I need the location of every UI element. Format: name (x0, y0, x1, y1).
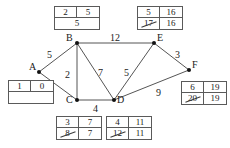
distance-cell-prev-b: 5 (55, 18, 99, 29)
graph-node-dot-a (37, 70, 41, 74)
distance-cell-order-d: 4 (107, 117, 129, 127)
distance-table-f: 6192019 (181, 81, 227, 105)
distance-cell-current-d: 11 (129, 128, 151, 139)
distance-cell-prev-e: 17 (138, 18, 160, 29)
graph-node-dot-d (112, 98, 116, 102)
edge-weight-a-b: 5 (47, 50, 52, 60)
distance-table-row-top: 619 (182, 82, 226, 93)
distance-cell-final-d: 11 (129, 117, 151, 127)
distance-table-row-bottom: 2019 (182, 93, 226, 104)
distance-cell-current-e: 16 (160, 18, 182, 29)
distance-cell-final-f: 19 (204, 82, 226, 92)
distance-cell-current-f: 19 (204, 93, 226, 104)
edge-weight-b-d: 7 (98, 68, 103, 78)
edge-weight-e-f: 3 (175, 50, 180, 60)
distance-table-row-top: 411 (107, 117, 151, 128)
distance-table-row-bottom (9, 92, 53, 103)
distance-table-d: 4111211 (106, 116, 152, 140)
graph-node-label-d: D (117, 95, 124, 105)
distance-cell-order-c: 3 (57, 117, 79, 127)
distance-cell-order-b: 2 (55, 7, 77, 17)
distance-table-b: 255 (54, 6, 100, 30)
graph-node-label-c: C (66, 95, 73, 105)
distance-cell-prev-f: 20 (182, 93, 204, 104)
distance-table-e: 5161716 (137, 6, 183, 30)
distance-table-row-bottom: 5 (55, 18, 99, 29)
distance-table-a: 10 (8, 80, 54, 104)
graph-edge-a-b (39, 43, 77, 72)
edge-weight-d-e: 5 (124, 68, 129, 78)
graph-node-dot-b (75, 41, 79, 45)
edge-weight-c-d: 4 (93, 104, 98, 114)
distance-cell-empty-a (9, 92, 53, 103)
distance-table-row-top: 516 (138, 7, 182, 18)
distance-cell-current-c: 7 (79, 128, 101, 139)
distance-cell-final-a: 0 (31, 81, 53, 91)
edge-weight-b-c: 2 (65, 70, 70, 80)
distance-table-row-bottom: 1716 (138, 18, 182, 29)
distance-cell-prev-c: 8 (57, 128, 79, 139)
graph-edge-b-d (77, 43, 114, 100)
distance-cell-order-a: 1 (9, 81, 31, 91)
distance-cell-order-e: 5 (138, 7, 160, 17)
graph-node-label-b: B (66, 33, 73, 43)
distance-cell-final-e: 16 (160, 7, 182, 17)
distance-table-row-top: 37 (57, 117, 101, 128)
distance-cell-order-f: 6 (182, 82, 204, 92)
edge-weight-b-e: 12 (110, 33, 120, 43)
distance-cell-final-b: 5 (77, 7, 99, 17)
graph-node-label-e: E (157, 33, 163, 43)
diagram-canvas: ABCDEF 5827124593 1025551617163787411121… (0, 0, 230, 148)
distance-table-row-top: 25 (55, 7, 99, 18)
distance-table-row-bottom: 1211 (107, 128, 151, 139)
edge-weight-d-f: 9 (156, 88, 161, 98)
graph-node-dot-f (187, 68, 191, 72)
graph-edge-e-f (154, 43, 189, 70)
graph-node-dot-e (152, 41, 156, 45)
distance-table-c: 3787 (56, 116, 102, 140)
graph-node-label-f: F (192, 60, 198, 70)
distance-table-row-top: 10 (9, 81, 53, 92)
graph-node-dot-c (75, 98, 79, 102)
distance-table-row-bottom: 87 (57, 128, 101, 139)
graph-node-label-a: A (29, 62, 36, 72)
distance-cell-final-c: 7 (79, 117, 101, 127)
distance-cell-prev-d: 12 (107, 128, 129, 139)
graph-edge-d-e (114, 43, 154, 100)
